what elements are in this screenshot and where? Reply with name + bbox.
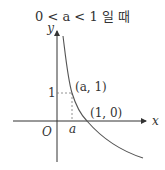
tick-one-label: 1 xyxy=(48,86,56,100)
tick-a-label: a xyxy=(69,122,76,136)
point-a1-label: (a, 1) xyxy=(75,80,107,94)
log-graph: y x O 1 a (a, 1) (1, 0) xyxy=(0,0,165,170)
y-axis-label: y xyxy=(46,21,54,35)
origin-label: O xyxy=(42,125,52,139)
point-10-label: (1, 0) xyxy=(90,106,122,120)
log-curve xyxy=(63,36,143,158)
x-axis-label: x xyxy=(152,114,159,128)
